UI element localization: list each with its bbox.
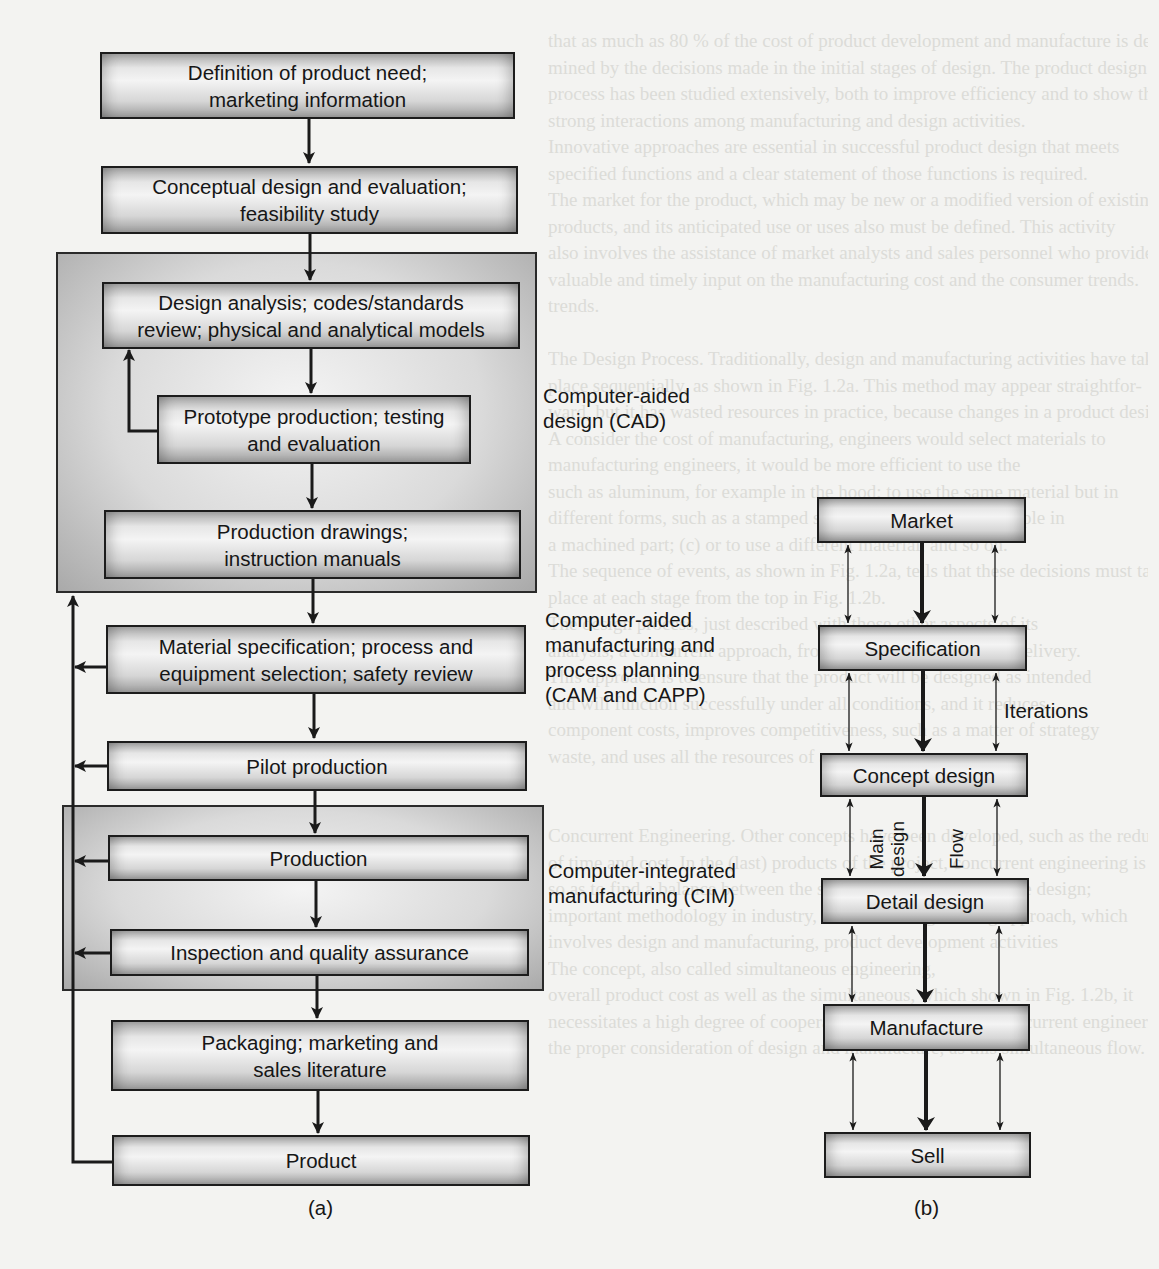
step-label: Packaging; marketing and xyxy=(201,1031,438,1054)
step-label: Sell xyxy=(910,1142,944,1169)
step-label: Prototype production; testing xyxy=(184,405,445,428)
step-label: review; physical and analytical models xyxy=(137,318,485,341)
step-label: Pilot production xyxy=(246,753,387,780)
bleed-line: involves design and manufacturing, produ… xyxy=(548,929,1148,956)
step-label: equipment selection; safety review xyxy=(159,662,472,685)
step-production-box: Production xyxy=(108,835,529,881)
step-label: Conceptual design and evaluation; xyxy=(152,175,467,198)
step-label: Detail design xyxy=(866,888,985,915)
step-label: Inspection and quality assurance xyxy=(170,939,469,966)
cim-label-line: Computer-integrated xyxy=(548,859,736,882)
step-detail-design-box: Detail design xyxy=(821,878,1029,924)
step-label: Design analysis; codes/standards xyxy=(158,291,463,314)
main-design-line: design xyxy=(887,821,908,877)
bleed-line: strong interactions among manufacturing … xyxy=(548,108,1148,135)
step-pilot-production-box: Pilot production xyxy=(107,741,527,791)
bleed-line: that as much as 80 % of the cost of prod… xyxy=(548,28,1148,55)
cam-label-line: manufacturing and xyxy=(545,633,715,656)
step-specification-box: Specification xyxy=(818,625,1027,671)
cam-group-label: Computer-aided manufacturing and process… xyxy=(545,607,715,707)
step-label: Production drawings; xyxy=(217,520,408,543)
bleed-line: valuable and timely input on the manufac… xyxy=(548,267,1148,294)
main-design-line: Main xyxy=(866,828,887,869)
step-label: Manufacture xyxy=(870,1014,984,1041)
bleed-line: Innovative approaches are essential in s… xyxy=(548,134,1148,161)
bleed-line: The market for the product, which may be… xyxy=(548,187,1148,214)
cam-label-line: Computer-aided xyxy=(545,608,692,631)
step-label: feasibility study xyxy=(240,202,379,225)
cad-label-line: Computer-aided xyxy=(543,384,690,407)
bleed-line: The sequence of events, as shown in Fig.… xyxy=(548,558,1148,585)
main-design-label: Main design xyxy=(866,814,910,884)
bleed-line xyxy=(548,320,1148,347)
step-label: Concept design xyxy=(853,762,995,789)
cad-group-label: Computer-aided design (CAD) xyxy=(543,383,690,433)
step-manufacture-box: Manufacture xyxy=(823,1004,1030,1051)
bleed-line: products, and its anticipated use or use… xyxy=(548,214,1148,241)
step-market-box: Market xyxy=(817,497,1026,543)
step-label: Production xyxy=(269,845,367,872)
step-label: and evaluation xyxy=(247,432,380,455)
step-inspection-box: Inspection and quality assurance xyxy=(110,929,529,976)
cam-label-line: process planning xyxy=(545,658,700,681)
bleed-line: manufacturing engineers, it would be mor… xyxy=(548,452,1148,479)
bleed-line: trends. xyxy=(548,293,1148,320)
bleed-line: The concept, also called simultaneous en… xyxy=(548,956,1148,983)
step-definition-box: Definition of product need;marketing inf… xyxy=(100,52,515,119)
step-label: sales literature xyxy=(253,1058,386,1081)
step-label: Product xyxy=(286,1147,357,1174)
cim-group-label: Computer-integrated manufacturing (CIM) xyxy=(548,858,736,908)
step-sell-box: Sell xyxy=(824,1132,1031,1178)
caption-b: (b) xyxy=(914,1196,939,1220)
step-prototype-box: Prototype production; testingand evaluat… xyxy=(157,395,471,464)
cim-label-line: manufacturing (CIM) xyxy=(548,884,735,907)
step-label: Definition of product need; xyxy=(188,61,427,84)
flow-label: Flow xyxy=(946,824,968,874)
bleed-line: also involves the assistance of market a… xyxy=(548,240,1148,267)
step-conceptual-box: Conceptual design and evaluation;feasibi… xyxy=(101,166,518,234)
bleed-line: Concurrent Engineering. Other concepts h… xyxy=(548,823,1148,850)
step-design-analysis-box: Design analysis; codes/standardsreview; … xyxy=(102,282,520,349)
step-label: instruction manuals xyxy=(224,547,401,570)
bleed-line: specified functions and a clear statemen… xyxy=(548,161,1148,188)
bleed-line: The Design Process. Traditionally, desig… xyxy=(548,346,1148,373)
step-product-box: Product xyxy=(112,1135,530,1186)
bleed-line: mined by the decisions made in the initi… xyxy=(548,55,1148,82)
step-label: marketing information xyxy=(209,88,406,111)
caption-a: (a) xyxy=(308,1196,333,1220)
bleed-line xyxy=(548,797,1148,824)
step-concept-design-box: Concept design xyxy=(820,753,1028,797)
bleed-line: process has been studied extensively, bo… xyxy=(548,81,1148,108)
cad-label-line: design (CAD) xyxy=(543,409,666,432)
step-label: Material specification; process and xyxy=(159,635,474,658)
step-production-drawings-box: Production drawings;instruction manuals xyxy=(104,510,521,579)
cam-label-line: (CAM and CAPP) xyxy=(545,683,706,706)
step-label: Specification xyxy=(864,635,980,662)
step-packaging-box: Packaging; marketing andsales literature xyxy=(111,1020,529,1091)
step-material-spec-box: Material specification; process andequip… xyxy=(106,625,526,694)
iterations-label: Iterations xyxy=(1004,698,1088,723)
step-label: Market xyxy=(890,507,953,534)
